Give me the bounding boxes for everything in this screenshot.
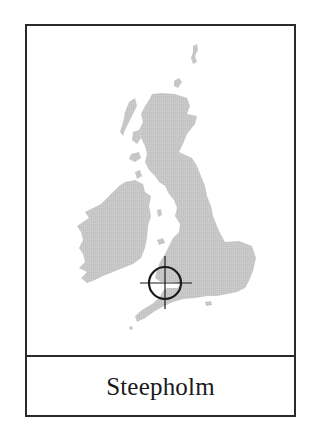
great-britain-shape <box>135 93 256 322</box>
landmass <box>77 44 256 330</box>
outer-hebrides-shape <box>120 98 137 136</box>
map-panel <box>27 26 294 357</box>
mull-shape <box>129 152 141 162</box>
islay-shape <box>135 170 142 179</box>
shetland-shape <box>191 44 198 64</box>
place-name-label: Steepholm <box>106 373 215 401</box>
isle-of-man-shape <box>157 209 162 217</box>
label-panel: Steepholm <box>27 357 294 415</box>
orkney-shape <box>174 78 182 88</box>
ireland-shape <box>77 180 151 283</box>
scilly-shape <box>129 326 133 330</box>
anglesey-shape <box>157 238 165 245</box>
british-isles-map <box>27 26 294 355</box>
isle-of-wight-shape <box>205 301 212 306</box>
location-card: Steepholm <box>25 24 296 417</box>
